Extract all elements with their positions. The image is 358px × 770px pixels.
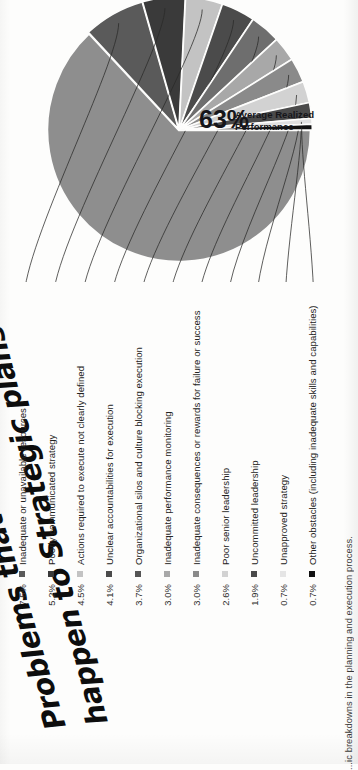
legend-percentage: 1.9% [249, 584, 260, 614]
legend-label: Poorly communicated strategy [46, 435, 57, 565]
legend-color-swatch [251, 571, 257, 577]
legend-label: Poor senior leadership [220, 468, 231, 565]
legend-label: Inadequate performance monitoring [162, 411, 173, 565]
legend-item: 5.2%Poorly communicated strategy [43, 435, 59, 614]
legend-item: 3.0%Inadequate consequences or rewards f… [188, 310, 204, 614]
legend-color-swatch [193, 571, 199, 577]
legend-percentage: 4.5% [75, 584, 86, 614]
legend-color-swatch [48, 571, 54, 577]
legend-color-swatch [222, 571, 228, 577]
legend-percentage: 2.6% [220, 584, 231, 614]
legend-label: Other obstacles (including inadequate sk… [307, 305, 318, 565]
legend-label: Organizational silos and culture blockin… [133, 347, 144, 565]
legend-percentage: 5.2% [46, 584, 57, 614]
legend-item: 4.5%Actions required to execute not clea… [72, 366, 88, 614]
legend-percentage: 3.0% [162, 584, 173, 614]
legend-item: 7.5%Inadequate or unavailable resources [14, 408, 30, 614]
legend-label: Uncommitted leadership [249, 460, 260, 565]
pie-chart: 63%Average RealizedPerformance [0, 0, 358, 282]
legend: 7.5%Inadequate or unavailable resources5… [10, 314, 348, 614]
legend-color-swatch [309, 571, 315, 577]
legend-color-swatch [135, 571, 141, 577]
legend-color-swatch [106, 571, 112, 577]
legend-label: Unapproved strategy [278, 475, 289, 565]
legend-item: 3.0%Inadequate performance monitoring [159, 411, 175, 614]
legend-item: 2.6%Poor senior leadership [217, 468, 233, 614]
legend-item: 3.7%Organizational silos and culture blo… [130, 347, 146, 614]
legend-label: Inadequate consequences or rewards for f… [191, 310, 202, 565]
legend-item: 4.1%Unclear accountabilities for executi… [101, 404, 117, 614]
legend-label: Actions required to execute not clearly … [75, 366, 86, 565]
legend-color-swatch [164, 571, 170, 577]
legend-color-swatch [77, 571, 83, 577]
legend-percentage: 3.7% [133, 584, 144, 614]
legend-color-swatch [280, 571, 286, 577]
legend-label: Unclear accountabilities for execution [104, 404, 115, 565]
legend-percentage: 0.7% [307, 584, 318, 614]
legend-item: 1.9%Uncommitted leadership [246, 460, 262, 614]
pie-center-sublabel-1: Average Realized [235, 109, 314, 120]
legend-percentage: 0.7% [278, 584, 289, 614]
legend-percentage: 7.5% [17, 584, 28, 614]
legend-label: Inadequate or unavailable resources [17, 408, 28, 565]
legend-percentage: 4.1% [104, 584, 115, 614]
legend-item: 0.7%Other obstacles (including inadequat… [304, 305, 320, 614]
legend-color-swatch [19, 571, 25, 577]
legend-item: 0.7%Unapproved strategy [275, 475, 291, 614]
pie-center-sublabel-2: Performance [235, 121, 294, 132]
legend-percentage: 3.0% [191, 584, 202, 614]
